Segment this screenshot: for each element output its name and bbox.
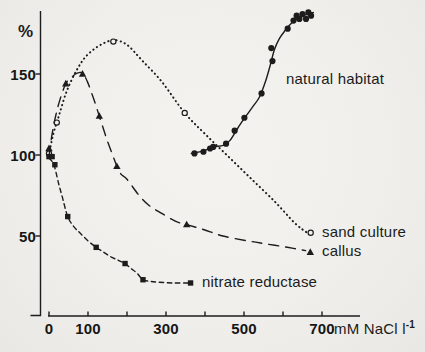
series-line-nitrate-reductase bbox=[49, 158, 191, 283]
chart-canvas bbox=[0, 0, 425, 352]
filled-square-marker bbox=[93, 245, 98, 250]
filled-circle-marker bbox=[269, 58, 275, 64]
x-tick-label: 700 bbox=[306, 321, 338, 336]
series-line-sand-culture bbox=[49, 40, 307, 233]
filled-triangle-marker bbox=[113, 162, 120, 169]
filled-circle-marker bbox=[308, 13, 314, 19]
open-circle-marker bbox=[182, 110, 187, 115]
filled-circle-marker bbox=[191, 150, 197, 156]
x-axis-unit-exponent: -1 bbox=[406, 319, 415, 330]
filled-square-marker bbox=[52, 162, 57, 167]
axes bbox=[31, 11, 361, 316]
filled-square-marker bbox=[49, 154, 54, 159]
series-label-sand-culture: sand culture bbox=[322, 224, 406, 239]
filled-square-marker bbox=[188, 280, 193, 285]
filled-triangle-marker bbox=[183, 221, 190, 228]
y-tick-label: 150 bbox=[8, 67, 36, 82]
filled-square-marker bbox=[65, 214, 70, 219]
open-circle-marker bbox=[111, 39, 116, 44]
x-tick-label: 300 bbox=[150, 321, 182, 336]
x-tick-label: 0 bbox=[33, 321, 65, 336]
series-label-callus: callus bbox=[322, 243, 362, 258]
x-axis-unit-label: mM NaCl l-1 bbox=[334, 320, 415, 336]
filled-square-marker bbox=[140, 277, 145, 282]
open-circle-marker bbox=[308, 230, 313, 235]
x-tick-label: 100 bbox=[72, 321, 104, 336]
filled-triangle-marker bbox=[79, 70, 86, 77]
series-sand-culture bbox=[46, 39, 313, 235]
y-tick-label: 50 bbox=[8, 229, 36, 244]
filled-triangle-marker bbox=[307, 248, 314, 255]
filled-circle-marker bbox=[241, 115, 247, 121]
series-label-nitrate-reductase: nitrate reductase bbox=[202, 274, 317, 289]
y-axis-unit-label: % bbox=[18, 23, 33, 40]
filled-circle-marker bbox=[232, 128, 238, 134]
x-axis-unit-base: mM NaCl l bbox=[334, 320, 406, 337]
filled-circle-marker bbox=[258, 90, 264, 96]
figure: % natural habitat sand culture callus ni… bbox=[0, 0, 425, 352]
series-label-natural-habitat: natural habitat bbox=[286, 71, 384, 86]
filled-triangle-marker bbox=[45, 145, 52, 152]
filled-triangle-marker bbox=[62, 80, 69, 87]
series-callus bbox=[45, 70, 314, 255]
filled-circle-marker bbox=[285, 26, 291, 32]
filled-triangle-marker bbox=[96, 112, 103, 119]
filled-circle-marker bbox=[268, 45, 274, 51]
filled-square-marker bbox=[122, 261, 127, 266]
filled-circle-marker bbox=[200, 149, 206, 155]
series-line-callus bbox=[49, 72, 306, 250]
y-tick-label: 100 bbox=[8, 148, 36, 163]
filled-circle-marker bbox=[223, 141, 229, 147]
x-tick-label: 500 bbox=[228, 321, 260, 336]
